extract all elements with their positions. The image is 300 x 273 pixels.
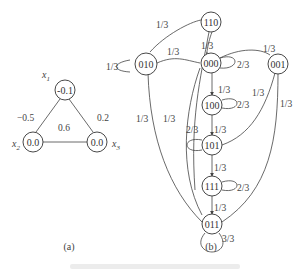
figure: −0.5 0.2 0.6 -0.1 0.0 0.0 x1 x2 x3 (a) [0,0,300,273]
self-loop-101 [187,139,202,150]
edge-x1-x3 [69,99,93,132]
node-x3: 0.0 [87,132,107,152]
svg-text:0.0: 0.0 [27,137,40,148]
label-100-self: 2/3 [237,100,249,110]
state-node-011: 011 [202,214,222,234]
self-loop-010 [117,60,131,72]
svg-text:110: 110 [204,17,219,28]
state-node-001: 001 [268,54,288,74]
svg-text:101: 101 [205,140,220,151]
label-000-100: 1/3 [218,85,230,95]
figure-caption-faded [70,264,240,269]
label-000-001: 1/3 [263,44,275,54]
var-label-x1: x1 [41,69,50,83]
var-label-x2: x2 [11,138,20,152]
state-node-110: 110 [201,12,221,32]
state-node-010: 010 [135,53,157,75]
node-x2: 0.0 [23,132,43,152]
svg-text:001: 001 [271,59,286,70]
edge-x1-x2 [36,99,60,132]
label-011-self: 3/3 [222,234,234,244]
label-111-011: 1/3 [214,203,226,213]
svg-text:0.0: 0.0 [91,137,104,148]
svg-text:-0.1: -0.1 [57,85,73,96]
state-node-100: 100 [202,95,222,115]
node-x1: -0.1 [55,80,75,100]
label-101-self: 2/3 [186,125,198,135]
panel-b: 1/3 1/3 1/3 1/3 2/3 1/3 1/3 2/3 1/3 1/3 … [106,12,292,253]
self-loop-111 [222,181,237,191]
var-label-x3: x3 [111,138,120,152]
label-001-101: 1/3 [252,88,264,98]
edge-weight-x1-x3: 0.2 [97,113,109,123]
label-100-101: 1/3 [214,125,226,135]
self-loop-000 [220,57,235,68]
svg-text:111: 111 [205,181,219,192]
panel-b-label: (b) [205,241,217,253]
state-node-111: 111 [202,176,222,196]
state-node-101: 101 [202,135,222,155]
svg-text:011: 011 [205,219,220,230]
state-node-000: 000 [201,53,221,73]
label-000-self: 2/3 [237,60,249,70]
edge-010-000 [157,59,200,63]
label-010-self: 1/3 [106,62,118,72]
label-111-self: 2/3 [237,183,249,193]
edge-weight-x2-x3: 0.6 [58,123,70,133]
edge-001-011 [222,73,278,222]
self-loop-100 [222,99,237,109]
panel-a-label: (a) [63,241,74,253]
label-010-000: 1/3 [167,47,179,57]
svg-text:000: 000 [204,58,219,69]
panel-a: −0.5 0.2 0.6 -0.1 0.0 0.0 x1 x2 x3 (a) [11,69,120,253]
label-101-111: 1/3 [214,163,226,173]
label-110-111: 1/3 [163,114,175,124]
label-010-011: 1/3 [136,114,148,124]
label-110-010: 1/3 [156,20,168,30]
svg-text:010: 010 [139,59,154,70]
label-110-000: 1/3 [201,41,213,51]
edge-weight-x1-x2: −0.5 [17,113,34,123]
svg-text:100: 100 [205,100,220,111]
label-001-011: 1/3 [280,99,292,109]
